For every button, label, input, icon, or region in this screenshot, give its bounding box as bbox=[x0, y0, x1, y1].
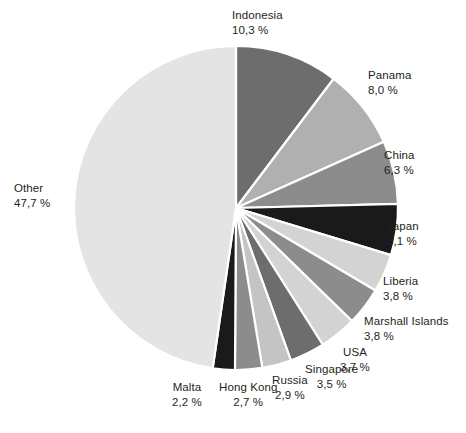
pie-label-japan: Japan5,1 % bbox=[387, 219, 419, 248]
pie-label-name: Singapore bbox=[305, 362, 358, 377]
pie-label-value: 3,5 % bbox=[305, 377, 358, 392]
pie-label-value: 2,7 % bbox=[219, 395, 277, 410]
pie-chart-figure: Indonesia 10,3 %Panama 8,0 %China 6,3 %J… bbox=[0, 0, 466, 433]
pie-label-value: 2,2 % bbox=[172, 395, 202, 410]
pie-label-value: 10,3 % bbox=[232, 23, 283, 38]
pie-label-value: 3,8 % bbox=[364, 329, 449, 344]
pie-label-indonesia: Indonesia10,3 % bbox=[232, 8, 283, 37]
pie-label-panama: Panama8,0 % bbox=[368, 68, 411, 97]
pie-label-singapore: Singapore3,5 % bbox=[305, 362, 358, 391]
pie-label-china: China6,3 % bbox=[384, 148, 415, 177]
pie-label-name: China bbox=[384, 148, 415, 163]
pie-slice-other[interactable]: Other 47,7 % bbox=[74, 46, 236, 368]
pie-label-name: Panama bbox=[368, 68, 411, 83]
pie-label-malta: Malta2,2 % bbox=[172, 380, 202, 409]
pie-label-name: Hong Kong bbox=[219, 380, 277, 395]
pie-label-value: 3,8 % bbox=[383, 289, 418, 304]
pie-label-value: 8,0 % bbox=[368, 83, 411, 98]
pie-chart-canvas: Indonesia 10,3 %Panama 8,0 %China 6,3 %J… bbox=[0, 0, 466, 433]
pie-label-liberia: Liberia3,8 % bbox=[383, 274, 418, 303]
pie-label-value: 6,3 % bbox=[384, 163, 415, 178]
pie-label-other: Other47,7 % bbox=[14, 181, 50, 210]
pie-label-name: Indonesia bbox=[232, 8, 283, 23]
pie-label-name: USA bbox=[340, 345, 370, 360]
pie-label-name: Malta bbox=[172, 380, 202, 395]
pie-label-name: Other bbox=[14, 181, 50, 196]
pie-slice-group: Indonesia 10,3 %Panama 8,0 %China 6,3 %J… bbox=[74, 46, 398, 370]
pie-label-hong-kong: Hong Kong2,7 % bbox=[219, 380, 277, 409]
pie-label-marshall-islands: Marshall Islands3,8 % bbox=[364, 314, 449, 343]
pie-label-value: 47,7 % bbox=[14, 196, 50, 211]
pie-label-name: Japan bbox=[387, 219, 419, 234]
pie-label-name: Liberia bbox=[383, 274, 418, 289]
pie-label-value: 5,1 % bbox=[387, 234, 419, 249]
pie-label-name: Marshall Islands bbox=[364, 314, 449, 329]
